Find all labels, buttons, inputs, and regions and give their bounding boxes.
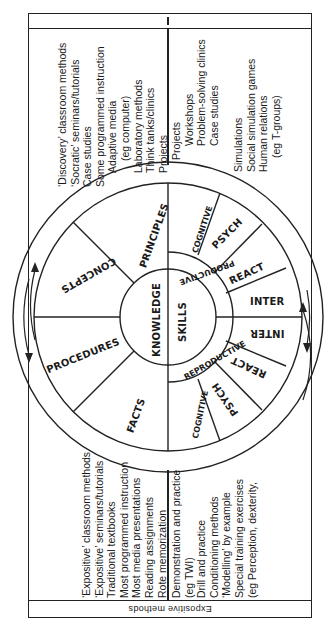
- list-item: Human relations: [257, 59, 270, 172]
- list-item: Most media presentations: [130, 452, 143, 598]
- list-item: Workshops: [183, 39, 196, 160]
- list-item: Conditioning methods: [208, 470, 221, 598]
- list-item: Case studies: [81, 43, 94, 187]
- list-item: (eg TWI): [183, 470, 196, 598]
- list-item: Drill and practice: [195, 470, 208, 598]
- list-item: Projects: [170, 39, 183, 160]
- skills-exploratory-methods-list-2: Simulations Social simulation games Huma…: [232, 59, 282, 172]
- list-item: Demonstration and practice: [170, 470, 183, 598]
- list-item: Laboratory methods: [132, 43, 145, 187]
- list-item: ‘Expositive’ classroom methods: [80, 452, 93, 598]
- list-item: ‘Modelling’ by example: [220, 470, 233, 598]
- list-item: Reading assignments: [143, 452, 156, 598]
- sector-productive-inter: INTER: [250, 296, 284, 307]
- list-item: (eg T-groups): [270, 59, 283, 172]
- list-item: Rote memorization: [156, 452, 169, 598]
- skills-expositive-methods-list: Demonstration and practice (eg TWI) Dril…: [170, 470, 258, 598]
- list-item: Special training exercises: [233, 470, 246, 598]
- list-item: ‘Socratic’ seminars/tutorials: [69, 43, 82, 187]
- list-item: (eg computer): [119, 43, 132, 187]
- skills-exploratory-methods-list-1: Projects Workshops Problem-solving clini…: [170, 39, 220, 160]
- list-item: Most programmed instruction: [118, 452, 131, 598]
- list-item: Simulations: [232, 59, 245, 172]
- list-item: (eg Perception, dexterity,: [246, 470, 259, 598]
- list-item: Problem-solving clinics: [195, 39, 208, 160]
- list-item: Case studies: [208, 39, 221, 160]
- list-item: Think tanks/clinics: [144, 43, 157, 187]
- list-item: Adaptive media: [106, 43, 119, 187]
- list-item: ‘Expositive’ seminars/tutorials: [93, 452, 106, 598]
- knowledge-expositive-methods-list: ‘Expositive’ classroom methods ‘Expositi…: [80, 452, 168, 598]
- list-item: Some programmed instruction: [94, 43, 107, 187]
- hub-knowledge-label: KNOWLEDGE: [151, 283, 164, 357]
- list-item: Projects: [157, 43, 170, 187]
- list-item: ‘Discovery’ classroom methods: [56, 43, 69, 187]
- arrow-head-right-up: [299, 302, 307, 312]
- list-item: Traditional textbooks: [105, 452, 118, 598]
- arrow-head-left-down: [25, 353, 33, 363]
- sector-reproductive-inter: INTER: [250, 328, 284, 339]
- arrow-head-left-up: [31, 262, 39, 272]
- list-item: Social simulation games: [245, 59, 258, 172]
- arrow-head-right-down: [303, 343, 311, 353]
- hub-skills-label: SKILLS: [177, 302, 190, 342]
- knowledge-exploratory-methods-list: ‘Discovery’ classroom methods ‘Socratic’…: [56, 43, 169, 187]
